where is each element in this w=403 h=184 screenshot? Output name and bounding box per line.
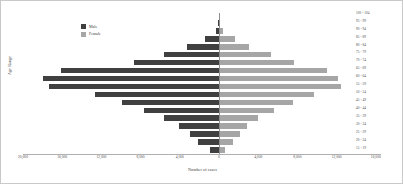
bar-male[interactable] bbox=[187, 44, 219, 50]
x-tick-label: 8,000 bbox=[293, 156, 301, 160]
age-range-labels: 100 - 10495 - 9990 - 9485 - 8980 - 8475 … bbox=[356, 11, 403, 154]
age-range-label: 60 - 64 bbox=[356, 75, 402, 78]
age-range-label: 80 - 84 bbox=[356, 44, 402, 47]
x-axis-ticks: 20,00016,00012,0008,0004,00004,0008,0001… bbox=[1, 156, 403, 166]
bar-female[interactable] bbox=[219, 123, 247, 129]
age-range-label: 90 - 94 bbox=[356, 28, 402, 31]
age-range-label: 20 - 24 bbox=[356, 139, 402, 142]
age-range-label: 30 - 34 bbox=[356, 123, 402, 126]
bar-female[interactable] bbox=[219, 139, 233, 145]
x-axis-title: Number of cases bbox=[1, 167, 403, 172]
bar-female[interactable] bbox=[219, 100, 293, 106]
bar-female[interactable] bbox=[219, 92, 314, 98]
x-tick-label: 16,000 bbox=[57, 156, 67, 160]
x-tick-label: 4,000 bbox=[254, 156, 262, 160]
bar-male[interactable] bbox=[43, 76, 219, 82]
bar-row bbox=[23, 92, 381, 98]
bar-row bbox=[23, 68, 381, 74]
age-range-label: 95 - 99 bbox=[356, 20, 402, 23]
x-tick-label: 12,000 bbox=[332, 156, 342, 160]
age-range-label: 35 - 39 bbox=[356, 115, 402, 118]
bar-male[interactable] bbox=[49, 84, 219, 90]
x-tick-label: 20,000 bbox=[18, 156, 28, 160]
age-range-label: 25 - 29 bbox=[356, 131, 402, 134]
bar-female[interactable] bbox=[219, 60, 294, 66]
bar-male[interactable] bbox=[144, 108, 219, 114]
bar-row bbox=[23, 52, 381, 58]
age-range-label: 15 - 19 bbox=[356, 147, 402, 150]
bar-male[interactable] bbox=[122, 100, 219, 106]
bar-male[interactable] bbox=[95, 92, 219, 98]
bar-male[interactable] bbox=[134, 60, 219, 66]
bar-female[interactable] bbox=[219, 131, 240, 137]
bar-female[interactable] bbox=[219, 36, 235, 42]
bar-row bbox=[23, 139, 381, 145]
bar-row bbox=[23, 36, 381, 42]
bar-row bbox=[23, 100, 381, 106]
bar-male[interactable] bbox=[61, 68, 219, 74]
bar-row bbox=[23, 84, 381, 90]
age-range-label: 40 - 44 bbox=[356, 107, 402, 110]
bar-male[interactable] bbox=[205, 36, 219, 42]
bar-male[interactable] bbox=[179, 123, 219, 129]
bar-male[interactable] bbox=[198, 139, 219, 145]
bar-female[interactable] bbox=[219, 115, 258, 121]
age-range-label: 55 - 59 bbox=[356, 83, 402, 86]
bar-female[interactable] bbox=[219, 52, 271, 58]
bar-male[interactable] bbox=[190, 131, 219, 137]
bar-row bbox=[23, 76, 381, 82]
bar-row bbox=[23, 12, 381, 18]
bar-row bbox=[23, 20, 381, 26]
bar-row bbox=[23, 115, 381, 121]
bar-row bbox=[23, 147, 381, 153]
bar-row bbox=[23, 60, 381, 66]
bar-row bbox=[23, 28, 381, 34]
age-range-label: 65 - 69 bbox=[356, 67, 402, 70]
zero-axis-line bbox=[219, 13, 220, 154]
bar-row bbox=[23, 44, 381, 50]
x-tick-label: 16,000 bbox=[371, 156, 381, 160]
age-range-label: 85 - 89 bbox=[356, 36, 402, 39]
population-pyramid-chart: Age Range MaleFemale 100 - 10495 - 9990 … bbox=[0, 0, 403, 184]
age-range-label: 100 - 104 bbox=[356, 12, 402, 15]
plot-area bbox=[23, 11, 381, 154]
x-tick-label: 0 bbox=[218, 156, 220, 160]
bar-male[interactable] bbox=[210, 147, 219, 153]
y-axis-title: Age Range bbox=[7, 44, 12, 88]
bar-female[interactable] bbox=[219, 44, 249, 50]
bar-female[interactable] bbox=[219, 76, 338, 82]
bar-row bbox=[23, 131, 381, 137]
x-tick-label: 8,000 bbox=[137, 156, 145, 160]
bar-row bbox=[23, 123, 381, 129]
bar-female[interactable] bbox=[219, 84, 341, 90]
bar-row bbox=[23, 108, 381, 114]
bar-male[interactable] bbox=[164, 52, 219, 58]
bar-male[interactable] bbox=[164, 115, 219, 121]
x-tick-label: 12,000 bbox=[96, 156, 106, 160]
x-tick-label: 4,000 bbox=[176, 156, 184, 160]
x-axis-line bbox=[23, 154, 381, 155]
age-range-label: 45 - 49 bbox=[356, 99, 402, 102]
bar-female[interactable] bbox=[219, 68, 327, 74]
bar-female[interactable] bbox=[219, 108, 274, 114]
age-range-label: 75 - 79 bbox=[356, 51, 402, 54]
age-range-label: 70 - 74 bbox=[356, 59, 402, 62]
age-range-label: 50 - 54 bbox=[356, 91, 402, 94]
